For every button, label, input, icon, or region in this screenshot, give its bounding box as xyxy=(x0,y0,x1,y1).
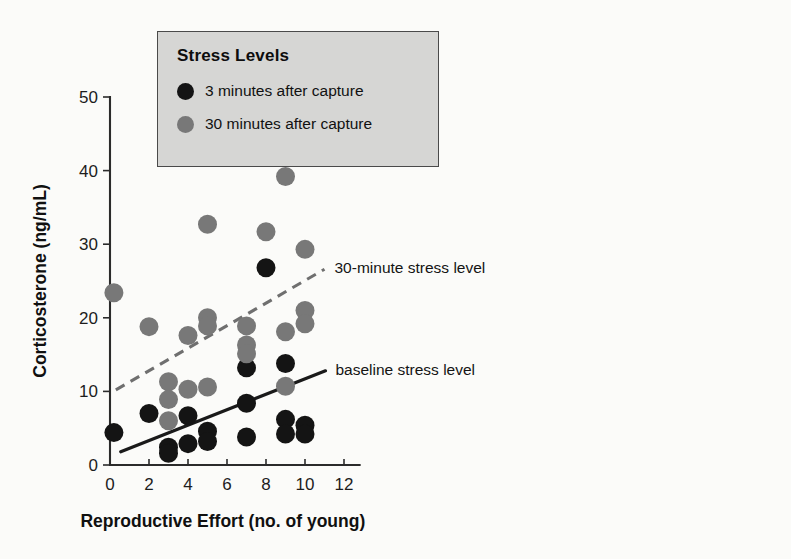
data-point-30min xyxy=(257,222,276,241)
data-point-30min xyxy=(159,411,178,430)
data-point-3min xyxy=(179,406,198,425)
annotation-baseline-stress-level: baseline stress level xyxy=(335,361,475,378)
data-point-3min xyxy=(257,258,276,277)
data-point-30min xyxy=(296,240,315,259)
gray-dot-icon xyxy=(177,116,194,133)
legend-title: Stress Levels xyxy=(177,46,438,66)
x-tick-label: 6 xyxy=(222,475,231,494)
data-point-3min xyxy=(104,423,123,442)
data-point-30min xyxy=(198,215,217,234)
y-tick-label: 10 xyxy=(79,382,98,401)
data-point-3min xyxy=(276,425,295,444)
y-tick-label: 40 xyxy=(79,162,98,181)
data-point-30min xyxy=(276,377,295,396)
data-point-30min xyxy=(179,380,198,399)
legend-item-3min: 3 minutes after capture xyxy=(177,82,438,100)
data-point-30min xyxy=(296,314,315,333)
data-point-3min xyxy=(159,444,178,463)
legend-panel: Stress Levels 3 minutes after capture 30… xyxy=(157,31,439,167)
black-dot-icon xyxy=(177,83,194,100)
data-point-30min xyxy=(159,372,178,391)
data-point-3min xyxy=(276,354,295,373)
data-point-30min xyxy=(276,322,295,341)
x-tick-label: 12 xyxy=(335,475,354,494)
legend-item-label: 30 minutes after capture xyxy=(205,115,372,133)
line-annotations-group: 30-minute stress levelbaseline stress le… xyxy=(335,259,486,378)
data-point-3min xyxy=(140,404,159,423)
data-point-30min xyxy=(140,317,159,336)
data-point-3min xyxy=(296,425,315,444)
y-tick-label: 50 xyxy=(79,88,98,107)
x-tick-label: 8 xyxy=(261,475,270,494)
legend-item-30min: 30 minutes after capture xyxy=(177,115,438,133)
data-point-30min xyxy=(276,167,295,186)
data-point-30min xyxy=(237,316,256,335)
y-tick-label: 0 xyxy=(89,456,98,475)
data-point-3min xyxy=(237,428,256,447)
x-tick-label: 2 xyxy=(144,475,153,494)
data-point-3min xyxy=(237,394,256,413)
data-point-30min xyxy=(198,316,217,335)
data-point-30min xyxy=(237,344,256,363)
annotation-30-minute-stress-level: 30-minute stress level xyxy=(335,259,486,276)
legend-item-label: 3 minutes after capture xyxy=(205,82,364,100)
data-point-30min xyxy=(104,283,123,302)
scatter-plot-figure: 01020304050024681012 30-minute stress le… xyxy=(0,0,791,559)
x-tick-label: 10 xyxy=(296,475,315,494)
y-tick-label: 20 xyxy=(79,309,98,328)
data-point-30min xyxy=(179,326,198,345)
data-point-30min xyxy=(198,377,217,396)
data-point-30min xyxy=(159,390,178,409)
y-axis-title: Corticosterone (ng/mL) xyxy=(30,184,50,377)
y-tick-label: 30 xyxy=(79,235,98,254)
data-point-3min xyxy=(198,432,217,451)
x-tick-label: 0 xyxy=(105,475,114,494)
x-axis-title: Reproductive Effort (no. of young) xyxy=(80,511,365,531)
x-tick-label: 4 xyxy=(183,475,192,494)
data-point-3min xyxy=(179,434,198,453)
